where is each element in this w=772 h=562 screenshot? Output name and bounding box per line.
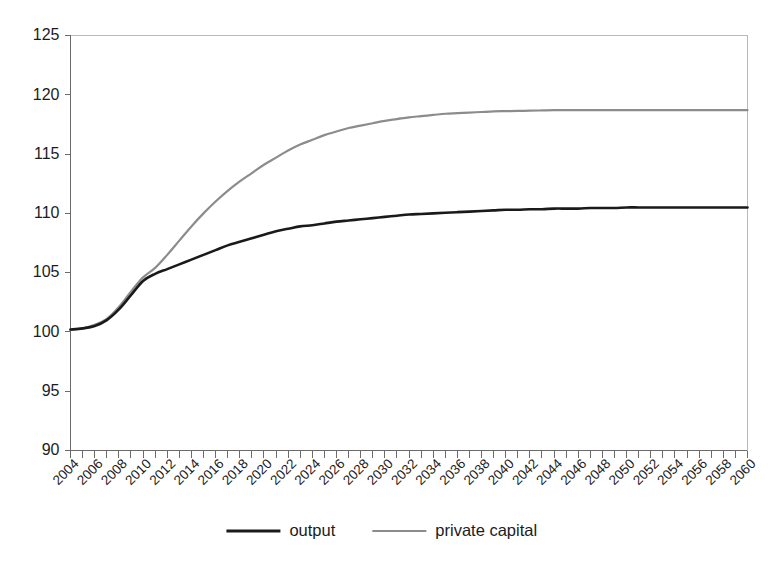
y-axis-tick-label: 105	[33, 263, 60, 280]
y-axis-tick-label: 110	[34, 204, 60, 221]
chart-figure: 9095100105110115120125 20042006200820102…	[0, 0, 772, 562]
y-axis-tick-label: 100	[33, 323, 60, 340]
legend-label-output: output	[289, 521, 335, 539]
y-axis-tick-label: 90	[42, 441, 60, 458]
y-axis-tick-label: 125	[33, 26, 60, 43]
line-chart-canvas: 9095100105110115120125 20042006200820102…	[0, 0, 772, 562]
y-axis-tick-label: 120	[33, 86, 60, 103]
y-axis-tick-label: 115	[34, 145, 60, 162]
y-axis-tick-label: 95	[42, 382, 60, 399]
legend-label-private-capital: private capital	[435, 521, 537, 539]
